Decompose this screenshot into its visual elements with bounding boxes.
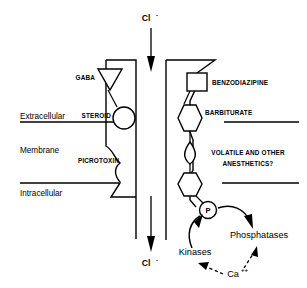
kinases-label: Kinases <box>179 247 212 257</box>
chloride-bottom-charge: - <box>156 257 158 263</box>
gaba-receptor-diagram: P Cl - Cl - Extracellular Mem <box>0 0 307 288</box>
calcium-label: Ca <box>227 269 240 279</box>
membrane-label: Membrane <box>20 146 60 155</box>
phosphatases-label: Phosphatases <box>230 230 289 240</box>
steroid-label: STEROID <box>82 112 112 119</box>
chloride-top-label: Cl <box>142 13 151 23</box>
calcium-charge: ++ <box>241 267 249 273</box>
picrotoxin-label: PICROTOXIN <box>78 157 119 164</box>
chloride-top-charge: - <box>156 12 158 18</box>
anesthetics-label-line1: VOLATILE AND OTHER <box>211 149 285 156</box>
extracellular-label: Extracellular <box>20 112 65 121</box>
benzodiazipine-square-site[interactable] <box>187 73 207 91</box>
barbiturate-label: BARBITURATE <box>205 109 253 116</box>
barbiturate-hexagon-site[interactable] <box>178 105 202 131</box>
diagram-canvas: P Cl - Cl - Extracellular Mem <box>0 0 307 288</box>
canvas-background <box>0 0 307 288</box>
steroid-circle-site[interactable] <box>113 107 135 129</box>
gaba-label: GABA <box>76 74 96 81</box>
anesthetics-label-line2: ANESTHETICS? <box>223 160 274 167</box>
intracellular-domain-hexagon[interactable] <box>178 173 202 196</box>
intracellular-label: Intracellular <box>20 189 63 198</box>
phosphate-label: P <box>205 206 210 215</box>
chloride-bottom-label: Cl <box>142 258 151 268</box>
benzodiazipine-label: BENZODIAZIPINE <box>212 79 269 86</box>
